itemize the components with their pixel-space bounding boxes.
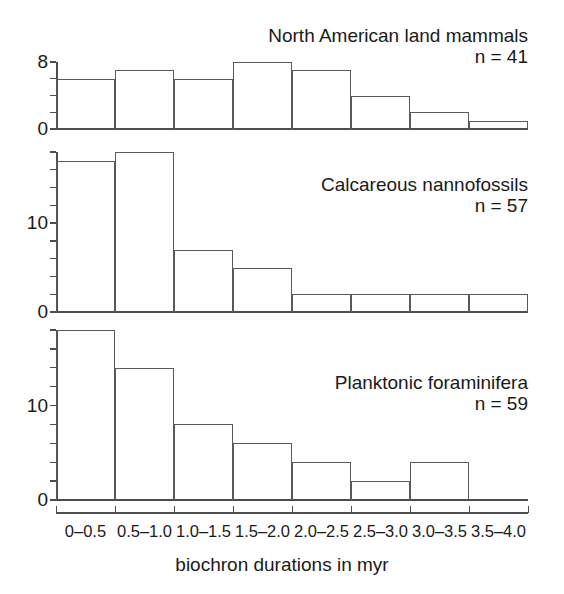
x-tick-8 <box>528 506 529 513</box>
bar <box>469 294 528 312</box>
bar <box>292 294 351 312</box>
x-tick-4 <box>292 506 293 513</box>
bar <box>292 70 351 129</box>
panel-sample-size-0: n = 41 <box>228 45 528 68</box>
bar <box>351 294 410 312</box>
bar <box>174 250 233 312</box>
panel-title-1: Calcareous nannofossils <box>228 173 528 196</box>
panel-sample-size-1: n = 57 <box>228 194 528 217</box>
bar <box>56 161 115 312</box>
x-axis-band: 0–0.50.5–1.01.0–1.51.5–2.02.0–2.52.5–3.0… <box>0 506 564 552</box>
bar <box>351 481 410 500</box>
plot-area-0 <box>56 62 528 129</box>
x-tick-7 <box>469 506 470 513</box>
panel-title-0: North American land mammals <box>228 24 528 47</box>
histogram-figure: North American land mammals n = 41 Calca… <box>0 0 564 594</box>
y-tick-label-2-0: 0 <box>8 490 48 509</box>
bar <box>292 462 351 500</box>
bar <box>115 152 174 312</box>
bar <box>469 121 528 129</box>
bar <box>233 62 292 129</box>
x-tick-5 <box>351 506 352 513</box>
bar <box>174 79 233 129</box>
plot-area-2 <box>56 330 528 500</box>
y-tick-0-8 <box>50 61 56 62</box>
x-tick-6 <box>410 506 411 513</box>
x-tick-1 <box>115 506 116 513</box>
x-axis-title: biochron durations in myr <box>0 554 564 576</box>
bar <box>233 443 292 500</box>
bar <box>351 96 410 130</box>
x-tick-0 <box>56 506 57 513</box>
y-tick-label-0-8: 8 <box>8 52 48 71</box>
x-category-label: 3.5–4.0 <box>460 522 537 540</box>
bar <box>174 424 233 500</box>
x-tick-2 <box>174 506 175 513</box>
panel-north-american-land-mammals <box>56 62 528 129</box>
bar <box>410 112 469 129</box>
panel-title-2: Planktonic foraminifera <box>228 371 528 394</box>
bar <box>56 79 115 129</box>
y-tick-label-1-10: 10 <box>8 213 48 232</box>
bar <box>410 462 469 500</box>
panel-sample-size-2: n = 59 <box>228 392 528 415</box>
bar <box>115 368 174 500</box>
bar <box>56 330 115 500</box>
bar <box>115 70 174 129</box>
y-tick-label-1-0: 0 <box>8 302 48 321</box>
y-tick-label-0-0: 0 <box>8 119 48 138</box>
panel-planktonic-foraminifera <box>56 330 528 500</box>
y-tick-label-2-10: 10 <box>8 396 48 415</box>
x-tick-3 <box>233 506 234 513</box>
bar <box>233 268 292 312</box>
bar <box>410 294 469 312</box>
y-tick-1-18 <box>50 151 56 152</box>
